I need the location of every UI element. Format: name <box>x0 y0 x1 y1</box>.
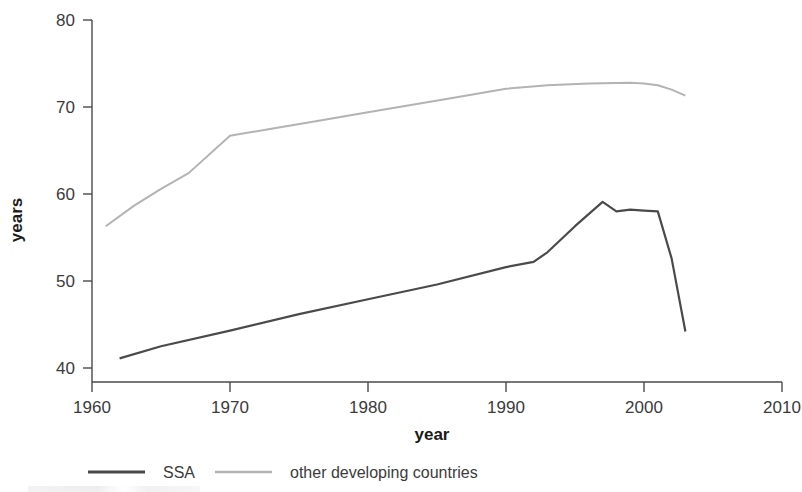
legend-label-ssa: SSA <box>163 464 195 481</box>
y-tick-label-40: 40 <box>56 359 75 378</box>
chart-legend: SSA other developing countries <box>88 464 478 481</box>
y-tick-marks <box>83 20 92 368</box>
x-tick-label-2010: 2010 <box>763 398 801 417</box>
series-line-ssa <box>120 202 686 359</box>
y-axis-title: years <box>7 198 26 242</box>
x-tick-label-1960: 1960 <box>73 398 111 417</box>
x-tick-label-2000: 2000 <box>625 398 663 417</box>
y-tick-labels: 80 70 60 50 40 <box>56 11 75 378</box>
y-tick-label-70: 70 <box>56 98 75 117</box>
y-tick-label-60: 60 <box>56 185 75 204</box>
y-tick-label-80: 80 <box>56 11 75 30</box>
line-chart: 80 70 60 50 40 1960 1970 1980 1990 2000 … <box>0 0 802 492</box>
y-tick-label-50: 50 <box>56 272 75 291</box>
x-tick-label-1970: 1970 <box>211 398 249 417</box>
x-tick-labels: 1960 1970 1980 1990 2000 2010 <box>73 398 801 417</box>
x-axis-title: year <box>415 425 450 444</box>
bottom-edge-artifact <box>28 486 200 492</box>
x-tick-marks <box>92 382 782 392</box>
chart-container: 80 70 60 50 40 1960 1970 1980 1990 2000 … <box>0 0 802 492</box>
x-tick-label-1980: 1980 <box>349 398 387 417</box>
legend-label-other-developing-countries: other developing countries <box>290 464 478 481</box>
x-tick-label-1990: 1990 <box>487 398 525 417</box>
